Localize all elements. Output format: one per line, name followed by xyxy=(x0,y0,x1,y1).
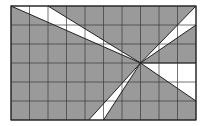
shaded-grid-diagram xyxy=(0,0,207,126)
